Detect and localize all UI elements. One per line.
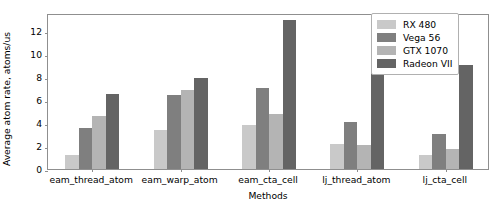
bar <box>269 114 283 169</box>
bar <box>459 65 473 169</box>
y-axis-tick-mark <box>45 33 48 34</box>
bar <box>283 20 297 169</box>
x-axis-tick-mark <box>446 169 447 172</box>
x-axis-tick-label: lj_cta_cell <box>423 174 467 185</box>
bar <box>194 78 208 169</box>
x-axis-tick-mark <box>357 169 358 172</box>
x-axis-tick-label: lj_thread_atom <box>322 174 390 185</box>
bar <box>242 125 256 169</box>
y-axis-tick-mark <box>45 56 48 57</box>
y-axis-tick-label: 2 <box>2 141 42 152</box>
bar <box>330 144 344 169</box>
bar <box>167 95 181 169</box>
legend-item: GTX 1070 <box>377 44 452 57</box>
legend-swatch-icon <box>377 46 396 55</box>
x-axis-tick-label: eam_warp_atom <box>142 174 218 185</box>
y-axis-tick-label: 12 <box>2 26 42 37</box>
legend-label: Radeon VII <box>403 57 452 70</box>
bar <box>357 145 371 169</box>
legend-swatch-icon <box>377 33 396 42</box>
legend-swatch-icon <box>377 59 396 68</box>
y-axis-tick-label: 4 <box>2 118 42 129</box>
y-axis-tick-mark <box>45 102 48 103</box>
y-axis-tick-mark <box>45 125 48 126</box>
bar <box>419 155 433 169</box>
legend-item: Vega 56 <box>377 31 452 44</box>
bar <box>65 155 79 169</box>
y-axis-tick-label: 10 <box>2 49 42 60</box>
y-axis-tick-mark <box>45 148 48 149</box>
bar <box>106 94 120 169</box>
legend-label: GTX 1070 <box>403 44 448 57</box>
legend-swatch-icon <box>377 20 396 29</box>
x-axis-tick-label: eam_cta_cell <box>238 174 298 185</box>
x-axis-tick-mark <box>92 169 93 172</box>
legend-label: RX 480 <box>403 18 436 31</box>
x-axis-tick-mark <box>269 169 270 172</box>
legend-item: RX 480 <box>377 18 452 31</box>
bar-chart-figure: Average atom rate, atoms/us Methods RX 4… <box>0 0 495 216</box>
bar <box>92 116 106 169</box>
bar <box>446 149 460 169</box>
y-axis-tick-mark <box>45 171 48 172</box>
bar <box>154 130 168 169</box>
legend-label: Vega 56 <box>403 31 440 44</box>
y-axis-tick-label: 8 <box>2 72 42 83</box>
bar <box>181 90 195 169</box>
bar <box>432 134 446 169</box>
y-axis-tick-label: 0 <box>2 164 42 175</box>
legend-item: Radeon VII <box>377 57 452 70</box>
x-axis-label: Methods <box>47 190 489 201</box>
x-axis-tick-mark <box>181 169 182 172</box>
x-axis-tick-label: eam_thread_atom <box>50 174 133 185</box>
y-axis-tick-mark <box>45 79 48 80</box>
legend: RX 480Vega 56GTX 1070Radeon VII <box>371 13 459 75</box>
bar <box>344 122 358 169</box>
y-axis-tick-label: 6 <box>2 95 42 106</box>
bar <box>79 128 93 169</box>
bar <box>256 88 270 169</box>
